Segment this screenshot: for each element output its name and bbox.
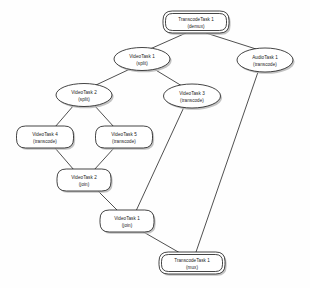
node-operation: (transcode) [112,139,136,144]
node-operation: (transcode) [180,98,204,103]
graph-edge [154,69,182,86]
node-operation: (split) [136,61,148,66]
node-title: VideoTask 2 [71,90,97,95]
node-operation: (transcode) [253,62,277,67]
graph-edge [136,107,184,211]
task-graph: TranscodeTask 1(demux)VideoTask 1(split)… [0,0,310,288]
node-operation: (join) [122,223,133,228]
graph-edge [150,33,186,49]
graph-edge [96,69,130,85]
node-operation: (mux) [186,265,198,270]
graph-node-videotask2-split[interactable]: VideoTask 2(split) [56,84,114,109]
graph-edge [94,148,114,170]
node-outline [17,126,74,148]
node-outline [114,48,170,71]
node-operation: (split) [78,97,90,102]
graph-node-transcode-mux[interactable]: TranscodeTask 1(mux) [159,252,227,276]
graph-edge [206,33,256,49]
node-title: VideoTask 1 [129,54,155,59]
node-operation: (transcode) [33,139,57,144]
graph-node-videotask3-transcode[interactable]: VideoTask 3(transcode) [164,84,223,110]
node-outline [100,210,154,232]
graph-edge [94,105,114,127]
node-title: VideoTask 4 [32,132,58,137]
graph-node-videotask1-split[interactable]: VideoTask 1(split) [114,48,172,73]
node-title: VideoTask 3 [179,91,205,96]
node-outline [164,84,221,108]
graph-node-videotask1-join[interactable]: VideoTask 1(join) [100,210,156,234]
node-title: VideoTask 2 [71,175,97,180]
node-title: AudioTask 1 [252,55,278,60]
graph-node-videotask4-transcode[interactable]: VideoTask 4(transcode) [17,126,76,150]
node-outline [237,48,293,72]
node-operation: (join) [79,182,90,187]
node-outline [96,126,153,148]
node-outline [57,169,111,191]
diagram-canvas: TranscodeTask 1(demux)VideoTask 1(split)… [0,0,310,288]
graph-edge [55,148,74,170]
node-title: VideoTask 5 [111,132,137,137]
node-outline [56,84,112,107]
nodes-layer: TranscodeTask 1(demux)VideoTask 1(split)… [17,11,295,276]
graph-node-videotask2-join[interactable]: VideoTask 2(join) [57,169,113,193]
graph-node-videotask5-transcode[interactable]: VideoTask 5(transcode) [96,126,155,150]
graph-node-transcode-demux[interactable]: TranscodeTask 1(demux) [163,11,231,35]
graph-edge [55,105,74,127]
node-operation: (demux) [187,24,205,29]
node-title: TranscodeTask 1 [174,258,210,263]
node-title: VideoTask 1 [114,216,140,221]
node-title: TranscodeTask 1 [178,17,214,22]
graph-node-audiotask1-transcode[interactable]: AudioTask 1(transcode) [237,48,295,74]
